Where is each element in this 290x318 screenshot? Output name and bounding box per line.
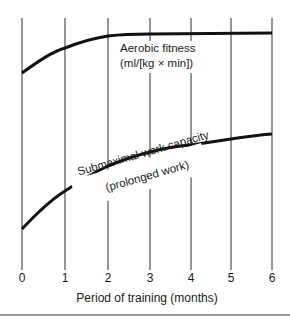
x-tick-0: 0 [19, 271, 26, 285]
aerobic-label-line1: Aerobic fitness [120, 42, 195, 54]
x-tick-2: 2 [105, 271, 112, 285]
x-tick-5: 5 [228, 271, 235, 285]
bottom-divider [0, 314, 290, 316]
x-tick-1: 1 [62, 271, 69, 285]
aerobic-label-line2: (ml/[kg × min]) [120, 57, 193, 69]
x-axis-label: Period of training (months) [2, 291, 290, 305]
x-tick-4: 4 [188, 271, 195, 285]
x-tick-6: 6 [269, 271, 276, 285]
x-tick-3: 3 [147, 271, 154, 285]
